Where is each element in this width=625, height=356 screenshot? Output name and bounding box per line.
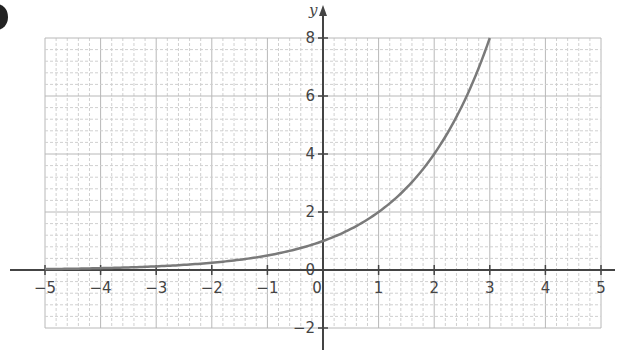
- x-tick-label: 4: [541, 279, 551, 297]
- x-tick-label: −1: [256, 279, 278, 297]
- y-tick-label: 4: [305, 145, 315, 163]
- y-axis-label: y: [308, 1, 318, 19]
- x-tick-label: 1: [374, 279, 384, 297]
- x-tick-label: −3: [145, 279, 167, 297]
- x-tick-label: 5: [596, 279, 606, 297]
- x-tick-label: −5: [34, 279, 56, 297]
- x-tick-label: 3: [485, 279, 495, 297]
- chart: y −5−4−3−2−1012345−224680: [0, 0, 625, 356]
- y-axis-arrow-icon: [319, 5, 327, 16]
- y-tick-label: −2: [293, 319, 315, 337]
- y-tick-label: 6: [305, 87, 315, 105]
- x-tick-label: 0: [312, 279, 322, 297]
- x-tick-label: −2: [201, 279, 223, 297]
- y-tick-label: 8: [305, 29, 315, 47]
- x-tick-label: 2: [429, 279, 439, 297]
- origin-label: 0: [305, 261, 315, 279]
- ticks: −5−4−3−2−1012345−224680: [34, 29, 606, 337]
- y-tick-label: 2: [305, 203, 315, 221]
- x-tick-label: −4: [90, 279, 112, 297]
